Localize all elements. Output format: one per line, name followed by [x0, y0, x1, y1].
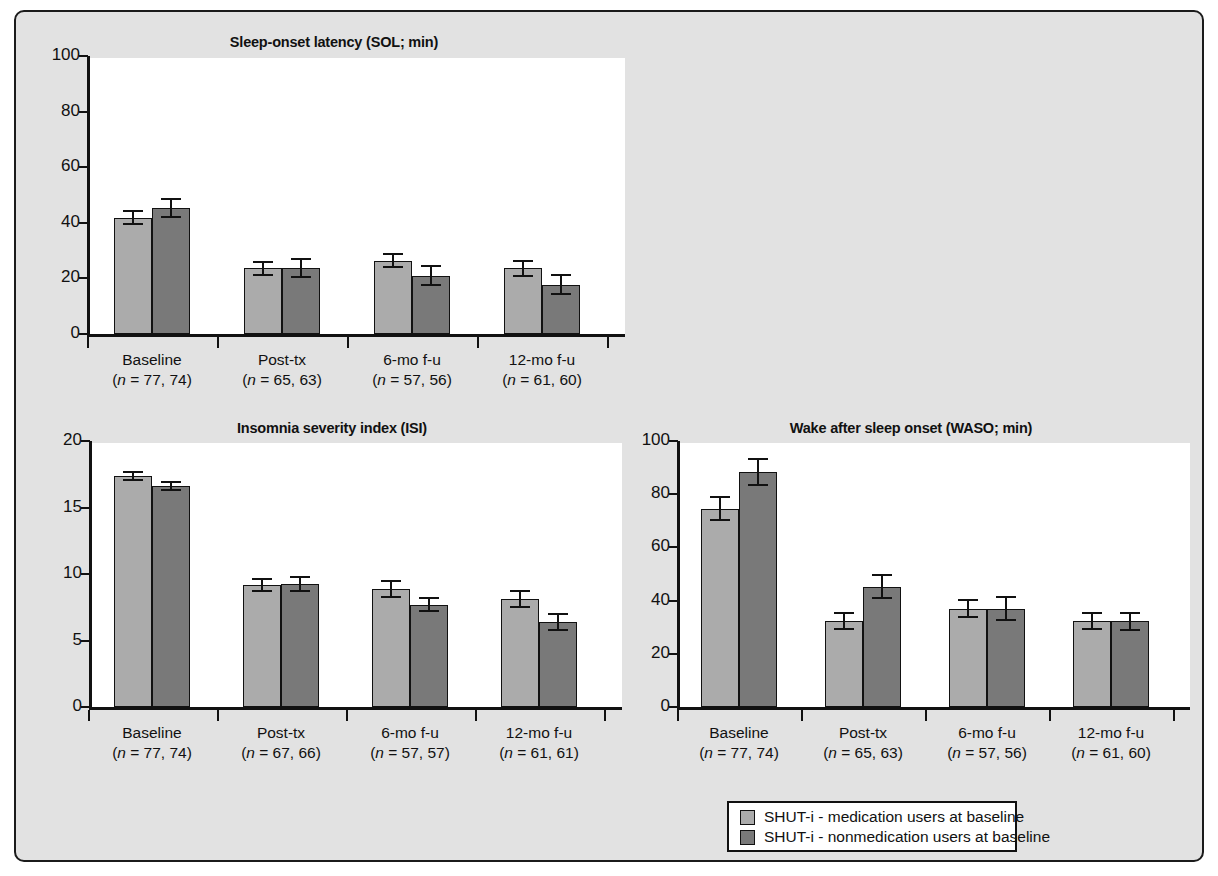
- error-bar-cap: [252, 578, 272, 580]
- y-tick: [81, 706, 90, 708]
- legend-label-medication: SHUT-i - medication users at baseline: [764, 808, 1024, 826]
- chart-title-sol: Sleep-onset latency (SOL; min): [34, 34, 634, 50]
- y-tick: [81, 507, 90, 509]
- error-bar-cap: [161, 481, 181, 483]
- y-tick-label: 60: [40, 156, 80, 176]
- x-tick: [477, 337, 479, 348]
- x-tick: [1049, 710, 1051, 721]
- error-bar-cap: [510, 606, 530, 608]
- y-tick: [79, 166, 88, 168]
- legend-swatch-light-icon: [740, 810, 755, 825]
- x-label-sample-size: (n = 57, 56): [347, 370, 477, 390]
- error-bar-cap: [421, 284, 441, 286]
- error-bar: [170, 199, 172, 216]
- x-label-sample-size: (n = 61, 60): [477, 370, 607, 390]
- y-tick-label: 80: [621, 483, 670, 503]
- error-bar-cap: [513, 275, 533, 277]
- error-bar-cap: [996, 619, 1016, 621]
- error-bar: [1091, 613, 1093, 628]
- bar-6-mo-f-u-series1: [949, 609, 987, 707]
- error-bar-cap: [123, 479, 143, 481]
- x-label-sample-size: (n = 65, 63): [217, 370, 347, 390]
- x-label-category: 12-mo f-u: [475, 723, 604, 743]
- error-bar-cap: [421, 265, 441, 267]
- error-bar: [1005, 597, 1007, 620]
- x-tick: [925, 710, 927, 721]
- x-axis-label-post-tx: Post-tx(n = 67, 66): [217, 723, 346, 763]
- error-bar-cap: [710, 519, 730, 521]
- error-bar-cap: [123, 223, 143, 225]
- y-tick-label: 15: [42, 497, 82, 517]
- y-tick-label: 20: [42, 430, 82, 450]
- x-label-sample-size: (n = 57, 57): [346, 743, 475, 763]
- y-tick: [81, 440, 90, 442]
- x-axis-label-baseline: Baseline(n = 77, 74): [88, 723, 217, 763]
- legend-swatch-dark-icon: [740, 830, 755, 845]
- x-axis-isi: [89, 707, 622, 710]
- error-bar-cap: [510, 590, 530, 592]
- y-tick-label: 10: [42, 563, 82, 583]
- error-bar-cap: [834, 612, 854, 614]
- error-bar: [719, 497, 721, 520]
- legend-item-nonmedication[interactable]: SHUT-i - nonmedication users at baseline: [740, 828, 1050, 846]
- error-bar-cap: [419, 597, 439, 599]
- y-tick-label: 0: [40, 323, 80, 343]
- bar-12-mo-f-u-series2: [539, 622, 577, 707]
- bar-baseline-series2: [152, 486, 190, 707]
- bar-baseline-series2: [152, 208, 190, 334]
- x-label-sample-size: (n = 67, 66): [217, 743, 346, 763]
- y-tick: [81, 640, 90, 642]
- error-bar-cap: [1082, 612, 1102, 614]
- bar-baseline-series1: [701, 509, 739, 707]
- legend-box: SHUT-i - medication users at baseline SH…: [727, 801, 1017, 852]
- chart-panel-sol: Sleep-onset latency (SOL; min) 020406080…: [34, 26, 634, 411]
- legend-item-medication[interactable]: SHUT-i - medication users at baseline: [740, 808, 1024, 826]
- bar-6-mo-f-u-series1: [372, 589, 410, 707]
- y-tick: [79, 55, 88, 57]
- error-bar: [390, 581, 392, 597]
- y-tick: [669, 440, 678, 442]
- y-tick: [669, 600, 678, 602]
- error-bar-cap: [161, 216, 181, 218]
- y-tick-label: 0: [42, 696, 82, 716]
- x-axis-label-baseline: Baseline(n = 77, 74): [87, 350, 217, 390]
- bar-6-mo-f-u-series2: [410, 605, 448, 707]
- error-bar: [1129, 613, 1131, 631]
- error-bar: [560, 275, 562, 293]
- y-tick: [81, 573, 90, 575]
- y-tick: [79, 111, 88, 113]
- x-axis-sol: [87, 334, 625, 337]
- bar-baseline-series1: [114, 476, 152, 707]
- x-tick: [217, 337, 219, 348]
- x-axis-label-post-tx: Post-tx(n = 65, 63): [801, 723, 925, 763]
- error-bar-cap: [710, 496, 730, 498]
- error-bar: [881, 575, 883, 598]
- y-axis-waso: [677, 441, 680, 709]
- error-bar-cap: [748, 458, 768, 460]
- error-bar-cap: [834, 628, 854, 630]
- error-bar: [428, 598, 430, 611]
- bar-post-tx-series1: [244, 268, 282, 334]
- x-tick: [607, 337, 609, 348]
- error-bar: [300, 259, 302, 277]
- x-label-sample-size: (n = 57, 56): [925, 743, 1049, 763]
- x-tick: [347, 337, 349, 348]
- x-label-category: Baseline: [677, 723, 801, 743]
- error-bar-cap: [290, 590, 310, 592]
- error-bar-cap: [748, 484, 768, 486]
- y-tick-label: 80: [40, 101, 80, 121]
- error-bar-cap: [290, 576, 310, 578]
- error-bar-cap: [291, 276, 311, 278]
- x-label-category: 12-mo f-u: [477, 350, 607, 370]
- chart-panel-waso: Wake after sleep onset (WASO; min) 02040…: [621, 414, 1201, 786]
- error-bar-cap: [958, 599, 978, 601]
- x-label-category: 6-mo f-u: [347, 350, 477, 370]
- error-bar-cap: [548, 629, 568, 631]
- bar-6-mo-f-u-series1: [374, 261, 412, 334]
- x-tick: [604, 710, 606, 721]
- error-bar-cap: [872, 574, 892, 576]
- error-bar-cap: [381, 580, 401, 582]
- error-bar-cap: [419, 610, 439, 612]
- x-label-category: Baseline: [87, 350, 217, 370]
- error-bar-cap: [253, 274, 273, 276]
